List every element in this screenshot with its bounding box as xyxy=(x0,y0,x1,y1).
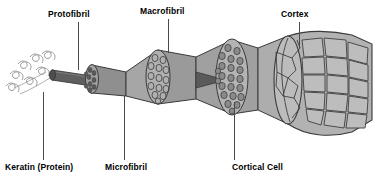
leader-line-cortex xyxy=(299,22,300,48)
cortex-shaft xyxy=(274,31,372,135)
keratin-helices xyxy=(6,51,55,94)
label-keratin: Keratin (Protein) xyxy=(5,163,73,172)
leader-line-microfibril xyxy=(124,96,125,160)
label-macrofibril: Macrofibril xyxy=(140,7,185,16)
leader-line-keratin xyxy=(43,92,44,160)
label-microfibril: Microfibril xyxy=(105,163,147,172)
diagram-artwork xyxy=(0,0,381,185)
hair-structure-diagram: Protofibril Macrofibril Cortex Keratin (… xyxy=(0,0,381,185)
leader-line-protofibril xyxy=(78,22,79,70)
label-cortex: Cortex xyxy=(281,10,309,19)
leader-line-cortical-cell xyxy=(234,102,235,160)
label-cortical-cell: Cortical Cell xyxy=(232,163,283,172)
label-protofibril: Protofibril xyxy=(48,10,90,19)
leader-line-macrofibril xyxy=(168,19,169,53)
